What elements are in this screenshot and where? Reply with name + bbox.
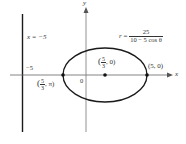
- y-axis-arrow-icon: [84, 7, 89, 13]
- equation-lhs: r: [119, 32, 122, 40]
- x-axis-arrow-icon: [167, 73, 173, 78]
- focus-point: [103, 73, 107, 77]
- polar-equation: r = 25 10 − 5 cos θ: [119, 29, 163, 43]
- left-vertex-label: (53, π): [37, 78, 54, 91]
- y-axis-label: y: [83, 0, 86, 7]
- left-vertex-label-tail: , π): [45, 80, 54, 88]
- ellipse-diagram: [0, 0, 186, 144]
- right-vertex-label: (5, 0): [148, 63, 163, 70]
- origin-label: 0: [80, 78, 83, 85]
- equation-denominator: 10 − 5 cos θ: [129, 37, 163, 44]
- left-vertex-point: [61, 73, 65, 77]
- equation-equals: =: [123, 32, 127, 40]
- focus-label: (53, 0): [98, 56, 115, 69]
- right-vertex-point: [145, 73, 149, 77]
- directrix-label: x = −5: [27, 34, 47, 41]
- tick-minus-5-label: −5: [26, 65, 33, 72]
- focus-label-tail: , 0): [106, 58, 115, 66]
- x-axis-label: x: [175, 71, 178, 78]
